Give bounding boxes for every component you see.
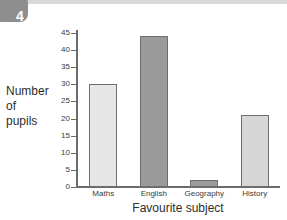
- x-tick-label: History: [230, 189, 281, 198]
- y-tick-label: 5: [48, 165, 70, 174]
- y-axis-title-line: of: [6, 99, 68, 114]
- y-tick-mark: [71, 67, 76, 68]
- x-tick-label: Maths: [78, 189, 129, 198]
- y-tick-mark: [71, 187, 76, 188]
- y-tick-label: 0: [48, 182, 70, 191]
- y-tick-label: 45: [48, 28, 70, 37]
- bar-chart: 454035302520151050 MathsEnglishGeography…: [0, 0, 287, 220]
- y-tick-label: 40: [48, 45, 70, 54]
- x-axis-title: Favourite subject: [76, 201, 280, 215]
- y-tick-mark: [71, 84, 76, 85]
- y-tick-mark: [71, 170, 76, 171]
- bar: [89, 84, 117, 187]
- y-tick-mark: [71, 119, 76, 120]
- y-tick-mark: [71, 101, 76, 102]
- bar: [241, 115, 269, 187]
- bar: [140, 36, 168, 187]
- y-tick-mark: [71, 136, 76, 137]
- y-tick-mark: [71, 153, 76, 154]
- x-tick-label: Geography: [179, 189, 230, 198]
- y-tick-mark: [71, 50, 76, 51]
- bar-series: [78, 30, 280, 187]
- y-axis-title: Numberofpupils: [6, 84, 68, 129]
- worksheet-page: 4 454035302520151050 MathsEnglishGeograp…: [0, 0, 287, 220]
- y-tick-mark: [71, 33, 76, 34]
- y-tick-label: 10: [48, 148, 70, 157]
- y-axis-title-line: pupils: [6, 114, 68, 129]
- y-tick-label: 35: [48, 62, 70, 71]
- y-axis-title-line: Number: [6, 84, 68, 99]
- bar: [190, 180, 218, 187]
- y-tick-label: 15: [48, 131, 70, 140]
- x-tick-label: English: [129, 189, 180, 198]
